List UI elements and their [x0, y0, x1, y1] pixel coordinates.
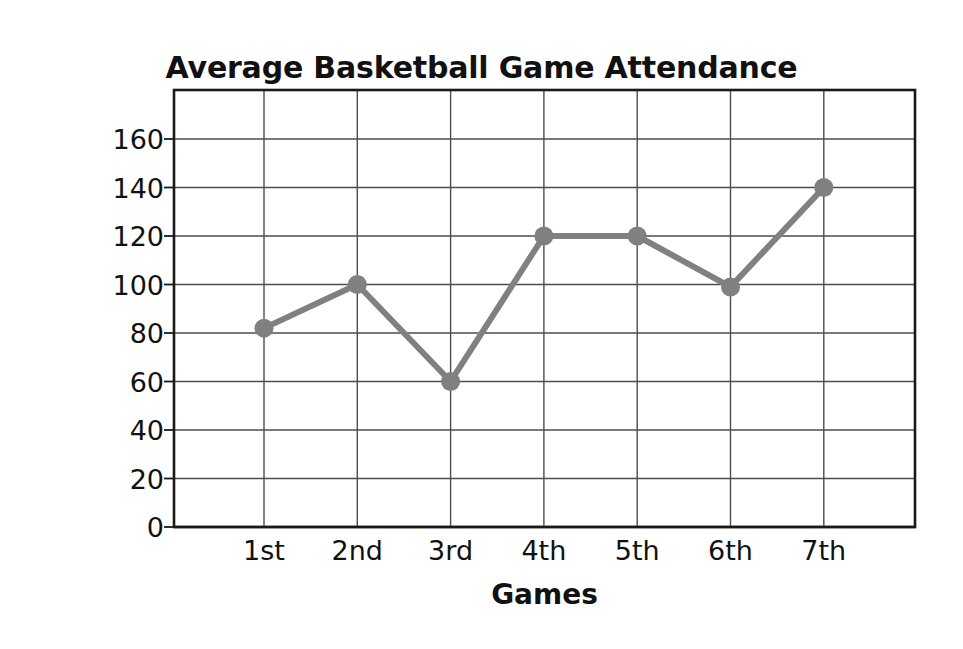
- data-point-3rd: [441, 372, 460, 391]
- data-point-5th: [628, 227, 647, 246]
- y-axis-ticks: [164, 139, 174, 527]
- chart-container: Average Basketball Game Attendance Numbe…: [0, 0, 963, 649]
- data-point-2nd: [348, 275, 367, 294]
- data-point-7th: [814, 178, 833, 197]
- data-point-6th: [721, 277, 740, 296]
- data-point-4th: [534, 227, 553, 246]
- data-point-1st: [255, 319, 274, 338]
- vertical-gridlines: [264, 90, 824, 527]
- plot-area: [0, 0, 963, 649]
